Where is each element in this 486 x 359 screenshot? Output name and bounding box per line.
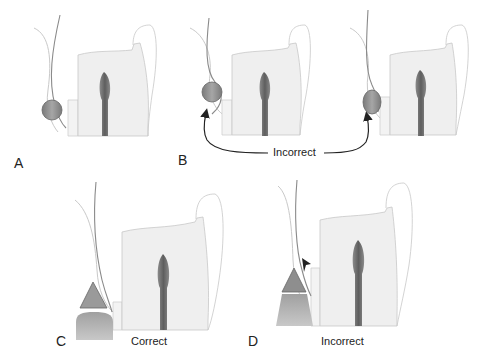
panel-c-illustration	[75, 182, 223, 340]
panel-label-c: C	[56, 334, 66, 348]
tooth-crown	[380, 97, 390, 135]
tooth-body	[68, 100, 78, 136]
panel-a-illustration	[34, 15, 156, 136]
tooth-crown	[222, 100, 232, 135]
tooth-crown	[113, 302, 122, 330]
gingiva-outline	[278, 186, 308, 312]
tooth-crown	[311, 268, 320, 326]
panel-b-illustration	[190, 18, 310, 136]
panel-label-b: B	[178, 153, 187, 167]
panel-label-a: A	[14, 156, 23, 170]
caption-correct: Correct	[128, 336, 170, 347]
cord-base	[276, 294, 313, 326]
cord-triangle	[80, 282, 107, 308]
arrowhead-indicator	[302, 258, 311, 272]
tooth-crown	[78, 43, 148, 136]
diagram-canvas	[0, 0, 486, 359]
cord-base	[76, 312, 113, 340]
retraction-cord	[363, 90, 381, 114]
caption-incorrect-d: Incorrect	[318, 336, 367, 347]
panel-d-illustration	[276, 180, 412, 326]
retraction-cord	[42, 100, 62, 120]
arrow-right	[324, 116, 368, 153]
panel-label-d: D	[248, 334, 258, 348]
caption-incorrect-b: Incorrect	[270, 147, 319, 158]
retraction-cord	[202, 82, 222, 102]
